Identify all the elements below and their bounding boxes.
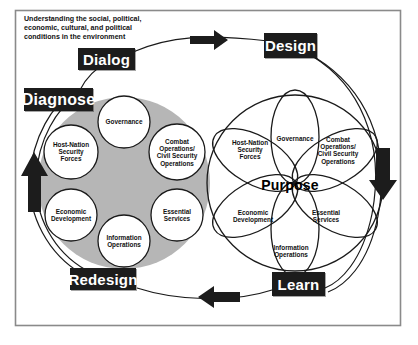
stage-label-dialog[interactable]: Dialog — [78, 48, 135, 70]
left-node-hostnation-shape[interactable] — [44, 125, 98, 179]
diagram-vector-layer — [0, 0, 418, 345]
stage-label-learn[interactable]: Learn — [272, 272, 325, 296]
diagram-canvas: Understanding the social, political, eco… — [0, 0, 418, 345]
stage-label-redesign[interactable]: Redesign — [70, 268, 136, 290]
left-node-information-shape[interactable] — [98, 215, 150, 267]
stage-label-design[interactable]: Design — [264, 33, 317, 58]
purpose-center-label: Purpose — [261, 177, 318, 193]
left-node-governance-shape[interactable] — [98, 96, 150, 148]
left-node-combat-shape[interactable] — [149, 124, 205, 180]
intro-text: Understanding the social, political, eco… — [24, 15, 156, 43]
left-node-economic-shape[interactable] — [45, 189, 97, 241]
left-node-essential-shape[interactable] — [151, 189, 203, 241]
stage-label-diagnose[interactable]: Diagnose — [24, 88, 93, 111]
